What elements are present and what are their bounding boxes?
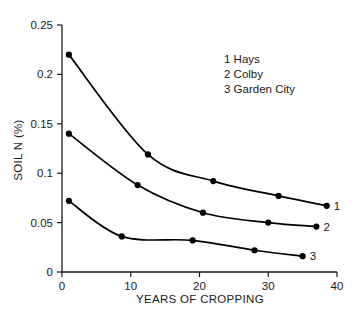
y-tick-label-5: 0.25 xyxy=(31,19,53,31)
data-point-3-0 xyxy=(66,198,72,204)
axes xyxy=(62,25,337,272)
x-axis-title: YEARS OF CROPPING xyxy=(136,293,264,305)
data-point-1-0 xyxy=(66,52,72,58)
y-tick-label-3: 0.15 xyxy=(31,118,53,130)
data-point-3-1 xyxy=(119,233,125,239)
data-point-3-2 xyxy=(190,237,196,243)
series-2 xyxy=(66,131,320,230)
x-tick-label-4: 40 xyxy=(331,280,344,292)
data-point-1-2 xyxy=(210,178,216,184)
series-end-label-2: 2 xyxy=(323,221,329,233)
data-point-2-4 xyxy=(313,223,319,229)
x-tick-label-1: 10 xyxy=(124,280,137,292)
y-axis-tick-labels: 00.050.10.150.20.25 xyxy=(31,19,53,278)
series-line-2 xyxy=(69,134,317,227)
data-point-3-4 xyxy=(300,253,306,259)
data-point-1-4 xyxy=(324,203,330,209)
data-point-1-1 xyxy=(145,151,151,157)
axis-lines xyxy=(62,25,337,272)
legend-entry-2: 2 Colby xyxy=(224,68,263,80)
y-tick-label-0: 0 xyxy=(47,266,53,278)
y-tick-label-4: 0.2 xyxy=(37,68,53,80)
x-tick-label-3: 30 xyxy=(262,280,275,292)
line-chart-canvas: 00.050.10.150.20.25 010203040 123 1 Hays… xyxy=(0,0,357,316)
data-point-2-1 xyxy=(135,182,141,188)
x-tick-label-2: 20 xyxy=(193,280,206,292)
legend-entry-3: 3 Garden City xyxy=(224,83,295,95)
series-1 xyxy=(66,52,330,209)
data-point-2-2 xyxy=(200,210,206,216)
y-tick-label-2: 0.1 xyxy=(37,167,53,179)
series-line-1 xyxy=(69,55,327,206)
series-end-label-1: 1 xyxy=(334,200,340,212)
data-point-2-3 xyxy=(265,220,271,226)
series-end-label-3: 3 xyxy=(310,250,316,262)
y-axis-title: SOIL N (%) xyxy=(12,119,24,180)
x-axis-tick-labels: 010203040 xyxy=(59,280,344,292)
legend-entry-1: 1 Hays xyxy=(224,53,260,65)
data-point-2-0 xyxy=(66,131,72,137)
legend: 1 Hays2 Colby3 Garden City xyxy=(224,53,295,95)
chart-figure: 00.050.10.150.20.25 010203040 123 1 Hays… xyxy=(0,0,357,316)
x-tick-label-0: 0 xyxy=(59,280,65,292)
data-point-3-3 xyxy=(251,247,257,253)
series-end-labels: 123 xyxy=(310,200,340,262)
y-tick-label-1: 0.05 xyxy=(31,217,53,229)
axis-ticks xyxy=(57,25,337,277)
series-line-3 xyxy=(69,201,303,256)
data-point-1-3 xyxy=(275,193,281,199)
